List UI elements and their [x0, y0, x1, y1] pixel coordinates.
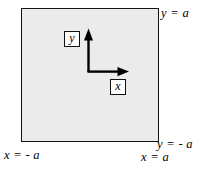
x-axis-label-box: x [110, 79, 126, 95]
y-axis-label-box: y [64, 31, 80, 47]
shaded-square-region [21, 8, 159, 142]
boundary-label-x-equals-neg-a: x = - a [4, 148, 40, 163]
boundary-label-y-equals-a: y = a [161, 6, 189, 21]
diagram-canvas: y x y = a y = - a x = a x = - a [0, 0, 206, 170]
y-axis-label-text: y [65, 32, 79, 46]
x-axis-label-text: x [111, 80, 125, 94]
boundary-label-x-equals-a: x = a [141, 150, 169, 165]
